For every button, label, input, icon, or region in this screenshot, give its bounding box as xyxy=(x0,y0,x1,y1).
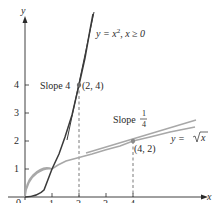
y-tick-label-3: 3 xyxy=(14,107,19,118)
sqrt-radicand: x xyxy=(200,132,206,143)
parabola-label: y = x2, x ≥ 0 xyxy=(95,27,145,39)
tangent-line-slope-4 xyxy=(67,12,94,140)
slope-quarter-label: Slope xyxy=(113,114,136,125)
origin-label: 0 xyxy=(16,197,21,203)
slope-fraction-denominator: 4 xyxy=(142,120,146,129)
point-4-2-label: (4, 2) xyxy=(134,143,156,155)
x-tick-label-2: 2 xyxy=(76,198,81,203)
y-tick-label-4: 4 xyxy=(14,79,19,90)
point-2-4 xyxy=(77,83,81,87)
x-tick-label-4: 4 xyxy=(130,198,135,203)
x-tick-label-1: 1 xyxy=(49,198,54,203)
slope-4-label: Slope 4 xyxy=(40,80,70,91)
parabola-curve xyxy=(25,14,93,197)
sqrt-curve xyxy=(25,127,195,197)
y-axis-label: y xyxy=(20,5,26,16)
slope-fraction-numerator: 1 xyxy=(142,109,146,118)
inverse-functions-derivative-diagram: y x 0 1 2 3 4 1 2 3 4 y = x2, x ≥ 0 Slop… xyxy=(0,0,216,203)
y-ticks xyxy=(25,85,29,169)
point-2-4-label: (2, 4) xyxy=(82,80,104,92)
x-ticks xyxy=(52,193,133,197)
y-tick-label-1: 1 xyxy=(14,163,19,174)
x-axis-label: x xyxy=(206,191,212,202)
x-tick-label-3: 3 xyxy=(103,198,108,203)
y-axis-arrow-icon xyxy=(23,16,28,23)
sqrt-label: y = xyxy=(170,133,185,144)
y-tick-label-2: 2 xyxy=(14,135,19,146)
